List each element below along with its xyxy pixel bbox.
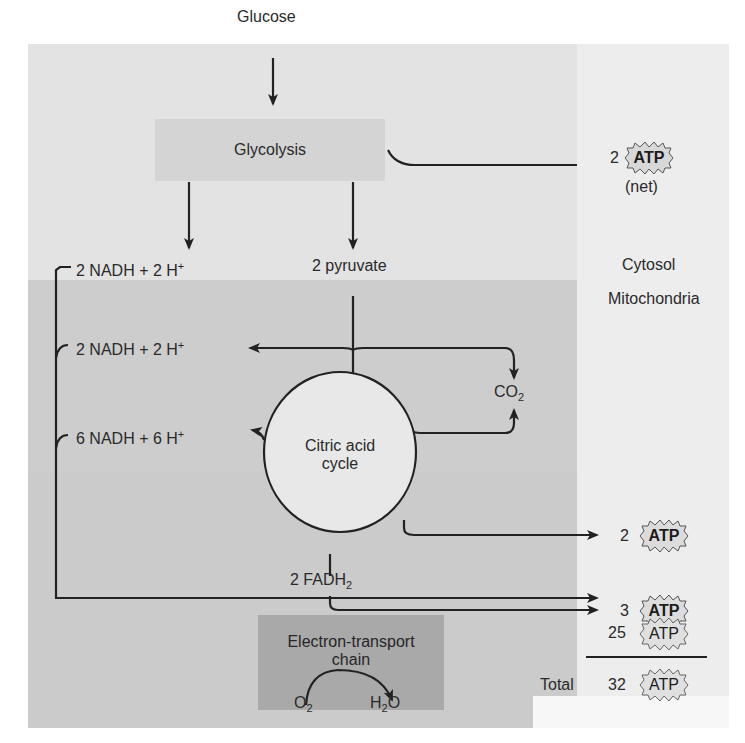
atp-net-note: (net) [625, 178, 658, 196]
total-label: Total [540, 676, 574, 694]
cycle-nadh-label: 6 NADH + 6 H+ [76, 425, 184, 448]
glucose-label: Glucose [237, 8, 296, 26]
citric-acid-cycle-label: Citric acid cycle [284, 437, 396, 473]
cytosol-label: Cytosol [622, 256, 675, 274]
glycolysis-atp-line [388, 150, 577, 165]
atp-nadh-count: 25 [608, 624, 626, 642]
pyruvate-nadh-arrow [250, 348, 353, 350]
pyruvate-co2-arrow [353, 348, 514, 378]
atp-cycle-badge: ATP [636, 519, 692, 553]
atp-net-count: 2 [610, 149, 619, 167]
o2-label: O2 [294, 694, 313, 717]
cycle-co2-arrow [405, 410, 514, 433]
cycle-nadh-arrow [252, 430, 264, 440]
atp-nadh-badge: ATP [636, 617, 692, 651]
h2o-label: H2O [370, 694, 400, 717]
atp-fadh2-count: 3 [620, 602, 629, 620]
fadh2-label: 2 FADH2 [290, 571, 352, 594]
pyruvate-nadh-label: 2 NADH + 2 H+ [76, 336, 184, 359]
mitochondria-label: Mitochondria [608, 290, 700, 308]
atp-total-badge: ATP [636, 668, 692, 702]
atp-cycle-count: 2 [620, 527, 629, 545]
pathway-arrows [0, 0, 745, 743]
cycle-atp-arrow [404, 520, 597, 535]
pyruvate-nadh-tick [56, 345, 68, 358]
cycle-nadh-tick [56, 435, 68, 448]
atp-total-count: 32 [608, 676, 626, 694]
atp-net-badge: ATP [621, 141, 677, 175]
pyruvate-label: 2 pyruvate [312, 257, 387, 275]
co2-label: CO2 [494, 383, 524, 406]
glycolysis-nadh-label: 2 NADH + 2 H+ [76, 257, 184, 280]
